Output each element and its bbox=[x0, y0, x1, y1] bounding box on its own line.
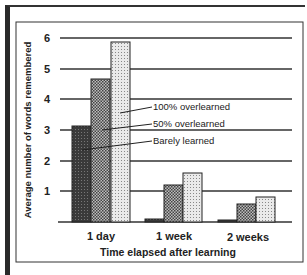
x-category-1-week: 1 week bbox=[156, 230, 193, 242]
bar-group-2-weeks bbox=[218, 197, 275, 222]
tick-2: 2 bbox=[44, 155, 50, 167]
bar-group-1-week bbox=[145, 173, 202, 222]
bar-100-1-week bbox=[183, 173, 202, 222]
annotation-barely-learned: Barely learned bbox=[153, 135, 214, 146]
annotation-100-overlearned: 100% overlearned bbox=[153, 101, 230, 112]
bar-50-1-week bbox=[164, 185, 183, 222]
x-axis-label: Time elapsed after learning bbox=[100, 246, 236, 258]
bar-barely-1-day bbox=[72, 126, 91, 222]
bar-50-1-day bbox=[91, 79, 110, 222]
annotation-50-overlearned: 50% overlearned bbox=[153, 118, 225, 129]
x-category-2-weeks: 2 weeks bbox=[227, 231, 269, 243]
x-category-1-day: 1 day bbox=[87, 230, 116, 242]
tick-5: 5 bbox=[44, 63, 50, 75]
bar-100-2-weeks bbox=[256, 197, 275, 222]
tick-6: 6 bbox=[44, 32, 50, 44]
tick-4: 4 bbox=[44, 93, 51, 105]
bar-100-1-day bbox=[111, 42, 130, 222]
bar-barely-1-week bbox=[145, 219, 164, 222]
bar-50-2-weeks bbox=[237, 204, 256, 222]
bar-barely-2-weeks bbox=[218, 220, 237, 222]
y-axis-label: Average number of words remembered bbox=[22, 42, 33, 219]
y-axis-ticks: 6 5 4 3 2 1 bbox=[44, 32, 51, 197]
tick-3: 3 bbox=[44, 124, 50, 136]
tick-1: 1 bbox=[44, 185, 50, 197]
